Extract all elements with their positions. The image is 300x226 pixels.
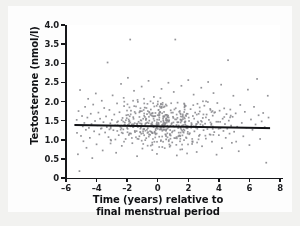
- x-tick-mark: [96, 178, 98, 182]
- x-tick-label: 0: [148, 183, 168, 193]
- x-tick-label: 4: [209, 183, 229, 193]
- plot-card: 00.51.01.52.02.53.03.54.0 –6–4–202468 Te…: [8, 6, 292, 212]
- x-tick-label: 8: [270, 183, 290, 193]
- y-tick-mark: [61, 158, 65, 160]
- y-tick-mark: [61, 63, 65, 65]
- x-tick-mark: [65, 178, 67, 182]
- scatter-plot-canvas: [66, 25, 280, 178]
- x-tick-label: –2: [117, 183, 137, 193]
- x-axis-title: Time (years) relative to final menstrual…: [32, 194, 284, 218]
- x-tick-mark: [279, 178, 281, 182]
- figure-container: 00.51.01.52.02.53.03.54.0 –6–4–202468 Te…: [0, 0, 300, 226]
- y-tick-mark: [61, 101, 65, 103]
- x-tick-mark: [126, 178, 128, 182]
- y-tick-mark: [61, 120, 65, 122]
- x-tick-mark: [218, 178, 220, 182]
- y-tick-mark: [61, 82, 65, 84]
- x-tick-label: 6: [239, 183, 259, 193]
- plot-panel: [66, 25, 280, 178]
- y-tick-mark: [61, 139, 65, 141]
- x-tick-mark: [249, 178, 251, 182]
- x-axis-title-line-1: Time (years) relative to: [93, 194, 224, 205]
- x-tick-mark: [188, 178, 190, 182]
- y-axis-line: [65, 25, 67, 179]
- x-axis-title-line-2: final menstrual period: [32, 206, 284, 218]
- x-axis-line: [65, 178, 283, 180]
- x-tick-label: –4: [87, 183, 107, 193]
- x-tick-label: –6: [56, 183, 76, 193]
- y-tick-label: 0: [35, 173, 59, 183]
- x-tick-label: 2: [178, 183, 198, 193]
- y-tick-mark: [61, 24, 65, 26]
- y-axis-title: Testosterone (nmol/l): [29, 11, 40, 161]
- y-tick-mark: [61, 43, 65, 45]
- x-tick-mark: [157, 178, 159, 182]
